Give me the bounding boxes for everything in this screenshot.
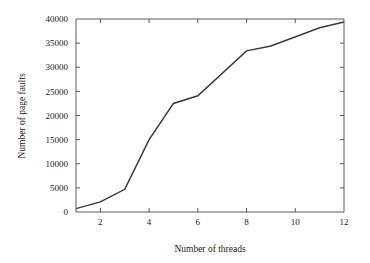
y-axis-tick-label: 10000	[46, 159, 69, 169]
page-faults-line	[76, 22, 344, 209]
x-axis-tick-label: 4	[147, 217, 152, 227]
x-axis-tick-marks	[100, 19, 295, 212]
x-axis-tick-label: 12	[340, 217, 349, 227]
plot-frame	[76, 19, 344, 212]
y-axis-tick-label: 35000	[46, 38, 69, 48]
y-axis-tick-label: 0	[64, 207, 69, 217]
x-axis-tick-label: 6	[196, 217, 201, 227]
y-axis-tick-label: 25000	[46, 87, 69, 97]
chart-figure: 0500010000150002000025000300003500040000…	[0, 0, 370, 263]
y-axis-tick-labels: 0500010000150002000025000300003500040000	[46, 14, 69, 217]
y-axis-title: Number of page faults	[17, 73, 27, 159]
x-axis-tick-label: 10	[291, 217, 301, 227]
x-axis-tick-label: 8	[244, 217, 249, 227]
y-axis-tick-label: 40000	[46, 14, 69, 24]
x-axis-tick-labels: 24681012	[98, 217, 348, 227]
y-axis-tick-label: 30000	[46, 62, 69, 72]
y-axis-tick-marks	[76, 43, 344, 188]
y-axis-tick-label: 20000	[46, 111, 69, 121]
y-axis-tick-label: 15000	[46, 135, 69, 145]
y-axis-tick-label: 5000	[50, 183, 69, 193]
x-axis-tick-label: 2	[98, 217, 103, 227]
x-axis-title: Number of threads	[174, 244, 246, 254]
line-chart: 0500010000150002000025000300003500040000…	[0, 0, 370, 263]
